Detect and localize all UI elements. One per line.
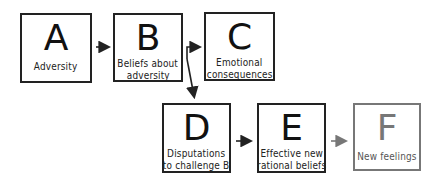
- box-letter: A: [44, 19, 69, 57]
- box-label-line: adversity: [126, 69, 169, 81]
- box-c-consequences: C Emotional consequences: [204, 12, 275, 81]
- box-label-line: Adversity: [34, 60, 78, 72]
- box-letter: F: [377, 109, 398, 147]
- box-label-line: New feelings: [357, 150, 416, 162]
- box-d-disputations: D Disputations to challenge B: [162, 103, 231, 173]
- box-letter: E: [280, 109, 303, 147]
- box-f-new-feelings: F New feelings: [353, 103, 421, 171]
- box-label-line: Emotional: [216, 56, 262, 68]
- box-b-beliefs: B Beliefs about adversity: [113, 13, 183, 82]
- box-label-line: Disputations: [167, 147, 225, 159]
- box-label-line: Effective new: [260, 147, 323, 159]
- box-label-line: Beliefs about: [118, 57, 179, 69]
- box-letter: D: [183, 109, 211, 147]
- box-label-line: to challenge B: [163, 159, 229, 171]
- box-letter: B: [136, 19, 161, 57]
- box-letter: C: [227, 18, 252, 56]
- box-e-effective-beliefs: E Effective new rational beliefs: [257, 103, 326, 173]
- box-label-line: consequences: [207, 68, 273, 80]
- box-label-line: rational beliefs: [257, 159, 326, 171]
- box-a-adversity: A Adversity: [20, 13, 92, 83]
- arrow-b-to-c: [187, 47, 199, 59]
- arrow-b-to-d: [187, 59, 194, 96]
